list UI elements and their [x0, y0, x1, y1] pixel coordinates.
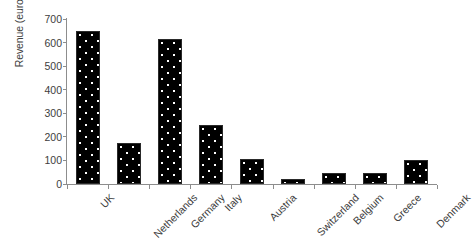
- bar: [117, 143, 141, 184]
- x-tick-mark: [273, 185, 274, 189]
- bar-slot: [314, 19, 355, 184]
- plot-area: 0100200300400500600700: [67, 19, 437, 184]
- bar: [76, 31, 100, 184]
- bar: [404, 160, 428, 184]
- x-tick-mark: [149, 185, 150, 189]
- x-axis-label: UK: [98, 192, 116, 210]
- bar-slot: [149, 19, 190, 184]
- bar-slot: [396, 19, 437, 184]
- x-tick-mark: [67, 185, 68, 189]
- bar-slot: [355, 19, 396, 184]
- y-tick-label: 600: [44, 37, 67, 49]
- bar: [322, 173, 346, 184]
- bar-slot: [231, 19, 272, 184]
- y-tick-label: 300: [44, 107, 67, 119]
- y-tick-label: 400: [44, 84, 67, 96]
- y-tick-label: 100: [44, 154, 67, 166]
- bar-slot: [273, 19, 314, 184]
- bar: [199, 125, 223, 184]
- x-tick-mark: [396, 185, 397, 189]
- x-tick-mark: [108, 185, 109, 189]
- bar: [281, 179, 305, 184]
- x-tick-mark: [314, 185, 315, 189]
- x-axis-label: Austria: [268, 192, 299, 223]
- bar-slot: [190, 19, 231, 184]
- y-tick-label: 200: [44, 131, 67, 143]
- x-tick-mark: [355, 185, 356, 189]
- y-tick-label: 500: [44, 60, 67, 72]
- x-tick-mark: [437, 185, 438, 189]
- x-tick-mark: [190, 185, 191, 189]
- x-axis-label: Greece: [391, 192, 423, 224]
- bar-slot: [108, 19, 149, 184]
- x-axis-line: [66, 184, 437, 185]
- x-axis-label: Denmark: [435, 192, 473, 230]
- bar-slot: [67, 19, 108, 184]
- x-tick-mark: [231, 185, 232, 189]
- bar: [363, 173, 387, 184]
- y-axis-title: Revenue (euros per capita): [9, 0, 29, 100]
- y-tick-label: 0: [56, 178, 67, 190]
- bar: [158, 39, 182, 184]
- y-tick-label: 700: [44, 13, 67, 25]
- x-axis-label: Italy: [223, 192, 244, 213]
- bar: [240, 159, 264, 184]
